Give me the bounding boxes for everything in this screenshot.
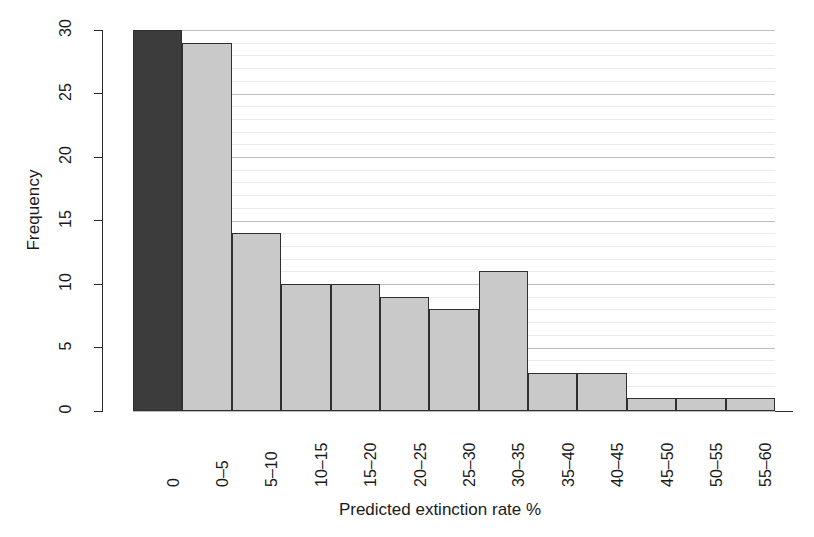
gridline-major	[133, 411, 775, 412]
plot-area	[133, 30, 775, 411]
y-axis-tick-label: 15	[49, 210, 83, 228]
y-axis-title-text: Frequency	[24, 169, 44, 250]
bar[interactable]	[528, 373, 577, 411]
bar[interactable]	[676, 398, 725, 411]
x-axis-tick-label: 10–15	[313, 443, 331, 488]
x-axis-tick-label: 25–30	[461, 443, 479, 488]
y-axis-tick-label: 20	[49, 146, 83, 164]
y-axis-tick	[94, 411, 103, 412]
bar[interactable]	[380, 297, 429, 411]
y-axis-tick-label-text: 25	[57, 83, 75, 101]
bar[interactable]	[429, 309, 478, 411]
x-axis-tick-label: 15–20	[362, 443, 380, 488]
x-axis-tick-label: 20–25	[412, 443, 430, 488]
y-axis-tick-label-text: 10	[57, 273, 75, 291]
x-axis-tick-label: 35–40	[560, 443, 578, 488]
y-axis-tick-label: 10	[49, 273, 83, 291]
y-axis-tick-label: 0	[49, 400, 83, 418]
x-axis-tick-label: 50–55	[708, 443, 726, 488]
y-axis-tick	[94, 347, 103, 348]
y-axis-tick-label-text: 30	[57, 19, 75, 37]
gridline-major	[133, 30, 775, 31]
y-axis-tick-label-text: 0	[57, 405, 75, 414]
y-axis-tick	[94, 220, 103, 221]
x-axis-tick-label: 45–50	[659, 443, 677, 488]
x-axis-tick-label: 55–60	[757, 443, 775, 488]
x-axis-tick-label: 0	[165, 478, 183, 487]
y-axis-tick-label: 5	[49, 337, 83, 355]
histogram-figure: Frequency 051015202530 00–55–1010–1515–2…	[0, 0, 814, 537]
x-axis-tick-label: 40–45	[609, 443, 627, 488]
bar[interactable]	[331, 284, 380, 411]
x-axis-title: Predicted extinction rate %	[0, 500, 814, 520]
bar[interactable]	[232, 233, 281, 411]
y-axis-tick	[94, 157, 103, 158]
y-axis-tick-label-text: 15	[57, 210, 75, 228]
x-axis-title-text: Predicted extinction rate %	[339, 500, 541, 520]
x-axis-tick-label: 30–35	[510, 443, 528, 488]
bar[interactable]	[479, 271, 528, 411]
bar[interactable]	[627, 398, 676, 411]
bar[interactable]	[577, 373, 626, 411]
bar[interactable]	[281, 284, 330, 411]
y-axis-tick-label: 25	[49, 83, 83, 101]
y-axis-tick	[94, 284, 103, 285]
x-axis-tick-label: 5–10	[263, 451, 281, 487]
y-axis-tick	[94, 93, 103, 94]
y-axis-tick-label-text: 5	[57, 341, 75, 350]
y-axis-title: Frequency	[14, 0, 54, 420]
bar[interactable]	[726, 398, 775, 411]
x-axis-tick-label: 0–5	[214, 460, 232, 487]
bar[interactable]	[133, 30, 182, 411]
y-axis-tick	[94, 30, 103, 31]
y-axis-tick-label: 30	[49, 19, 83, 37]
y-axis-tick-label-text: 20	[57, 146, 75, 164]
bar[interactable]	[182, 43, 231, 411]
